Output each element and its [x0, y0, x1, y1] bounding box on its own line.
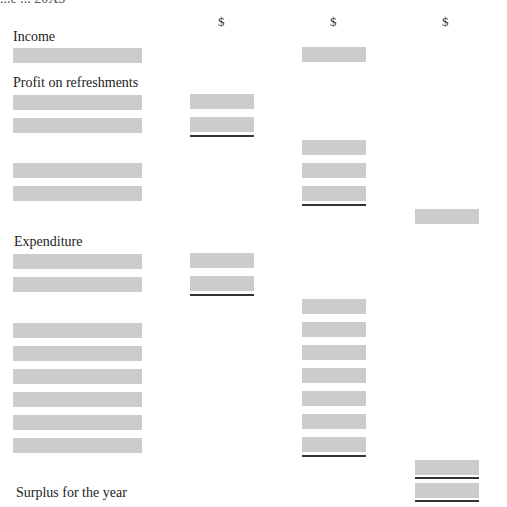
currency-header-col3: $	[442, 14, 449, 30]
underline-refresh-subtotal	[190, 135, 254, 137]
blank-exp-amount-8	[302, 437, 366, 452]
blank-income-amount-3	[302, 186, 366, 201]
section-income: Income	[13, 29, 55, 45]
blank-exp-amount-1	[190, 253, 254, 268]
section-surplus: Surplus for the year	[16, 485, 127, 501]
blank-exp-desc-6	[13, 392, 142, 407]
underline-income-total	[302, 204, 366, 206]
blank-exp-desc-1	[13, 254, 142, 269]
double-underline-surplus	[415, 500, 479, 502]
blank-total-income	[415, 209, 479, 224]
blank-refresh-desc-1	[13, 95, 142, 110]
blank-exp-desc-7	[13, 415, 142, 430]
blank-exp-desc-4	[13, 346, 142, 361]
blank-exp-amount-6	[302, 391, 366, 406]
underline-exp-subtotal	[190, 294, 254, 296]
blank-total-expenditure	[415, 460, 479, 475]
blank-income-amount-2	[302, 163, 366, 178]
blank-income-amount	[302, 47, 366, 62]
blank-exp-desc-5	[13, 369, 142, 384]
currency-header-col1: $	[218, 14, 225, 30]
blank-exp-desc-3	[13, 323, 142, 338]
blank-exp-amount-7	[302, 414, 366, 429]
blank-income-desc-3	[13, 186, 142, 201]
blank-refresh-amount-1	[190, 94, 254, 109]
blank-exp-desc-8	[13, 438, 142, 453]
currency-header-col2: $	[330, 14, 337, 30]
section-refreshments: Profit on refreshments	[13, 75, 138, 91]
blank-exp-amount-4	[302, 345, 366, 360]
blank-exp-subtotal	[302, 299, 366, 314]
blank-exp-amount-3	[302, 322, 366, 337]
underline-total-expenditure	[415, 477, 479, 479]
blank-refresh-amount-2	[190, 117, 254, 132]
blank-surplus	[415, 483, 479, 498]
blank-income-desc	[13, 48, 142, 63]
underline-exp-total	[302, 455, 366, 457]
clipped-title: ...e ... 20X3	[0, 0, 65, 7]
blank-income-desc-2	[13, 163, 142, 178]
blank-refresh-subtotal	[302, 140, 366, 155]
blank-refresh-desc-2	[13, 118, 142, 133]
blank-exp-amount-2	[190, 276, 254, 291]
blank-exp-desc-2	[13, 277, 142, 292]
section-expenditure: Expenditure	[14, 234, 82, 250]
blank-exp-amount-5	[302, 368, 366, 383]
